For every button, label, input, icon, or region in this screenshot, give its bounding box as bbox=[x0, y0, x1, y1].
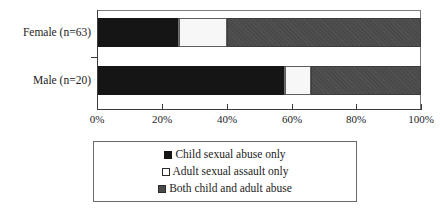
legend-swatch-white-icon bbox=[162, 168, 170, 176]
category-label-female: Female (n=63) bbox=[23, 26, 91, 39]
legend-item-both-child-and-adult-abuse: Both child and adult abuse bbox=[158, 180, 292, 197]
bar-segment-male-child-sexual-abuse-only bbox=[98, 66, 285, 95]
bar-segment-female-both-child-and-adult-abuse bbox=[227, 18, 421, 47]
legend-label-adult-sexual-assault-only: Adult sexual assault only bbox=[173, 165, 289, 178]
x-tick-mark-20 bbox=[162, 104, 163, 110]
category-label-male: Male (n=20) bbox=[33, 74, 91, 87]
x-tick-label-40: 40% bbox=[217, 113, 237, 126]
bar-segment-female-adult-sexual-assault-only bbox=[179, 18, 227, 47]
x-tick-label-60: 60% bbox=[282, 113, 302, 126]
bar-segment-male-adult-sexual-assault-only bbox=[285, 66, 311, 95]
bar-segment-female-child-sexual-abuse-only bbox=[98, 18, 179, 47]
x-tick-label-0: 0% bbox=[90, 113, 105, 126]
x-tick-mark-100 bbox=[421, 104, 422, 110]
legend-label-both-child-and-adult-abuse: Both child and adult abuse bbox=[169, 182, 292, 195]
x-tick-mark-0 bbox=[97, 104, 98, 110]
stacked-bar-chart: Female (n=63) Male (n=20) 0% 20% 40% 60%… bbox=[0, 0, 440, 219]
legend-item-adult-sexual-assault-only: Adult sexual assault only bbox=[162, 163, 289, 180]
bar-male bbox=[98, 66, 421, 95]
x-tick-mark-60 bbox=[292, 104, 293, 110]
bar-female bbox=[98, 18, 421, 47]
legend-swatch-gray-icon bbox=[158, 185, 166, 193]
legend-item-child-sexual-abuse-only: Child sexual abuse only bbox=[164, 146, 285, 163]
legend-swatch-black-icon bbox=[164, 151, 172, 159]
bar-segment-male-both-child-and-adult-abuse bbox=[311, 66, 421, 95]
legend: Child sexual abuse only Adult sexual ass… bbox=[93, 141, 357, 202]
x-tick-mark-80 bbox=[356, 104, 357, 110]
x-axis-line bbox=[97, 109, 422, 110]
y-axis-mid-tick bbox=[91, 57, 97, 58]
x-tick-label-20: 20% bbox=[152, 113, 172, 126]
x-tick-mark-40 bbox=[227, 104, 228, 110]
legend-label-child-sexual-abuse-only: Child sexual abuse only bbox=[175, 148, 285, 161]
x-tick-label-100: 100% bbox=[408, 113, 434, 126]
x-tick-label-80: 80% bbox=[346, 113, 366, 126]
